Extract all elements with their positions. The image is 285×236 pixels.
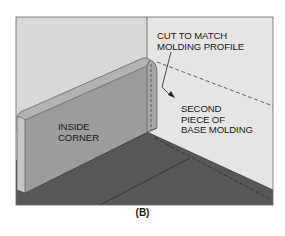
base-molding-inside-corner-figure: CUT TO MATCH MOLDING PROFILE SECOND PIEC… [0,0,285,236]
figure-caption: (B) [0,207,285,218]
inside-corner-line-2: CORNER [58,133,99,144]
molding-left-end [17,117,25,193]
second-piece-line-1: SECOND [181,104,253,115]
cut-label-line-1: CUT TO MATCH [157,31,244,42]
inside-corner-label: INSIDE CORNER [58,122,99,143]
second-piece-line-3: BASE MOLDING [181,125,253,136]
molding-right-end [147,60,157,132]
cut-label-line-2: MOLDING PROFILE [157,42,244,53]
second-piece-label: SECOND PIECE OF BASE MOLDING [181,104,253,136]
cut-to-match-label: CUT TO MATCH MOLDING PROFILE [157,31,244,52]
inside-corner-line-1: INSIDE [58,122,99,133]
